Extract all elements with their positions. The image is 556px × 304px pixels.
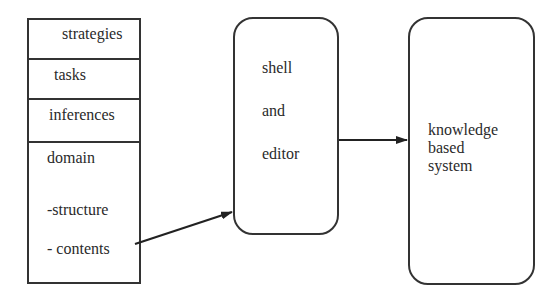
arrows-layer	[0, 0, 556, 304]
arrow-contents-to-shell	[135, 212, 232, 244]
